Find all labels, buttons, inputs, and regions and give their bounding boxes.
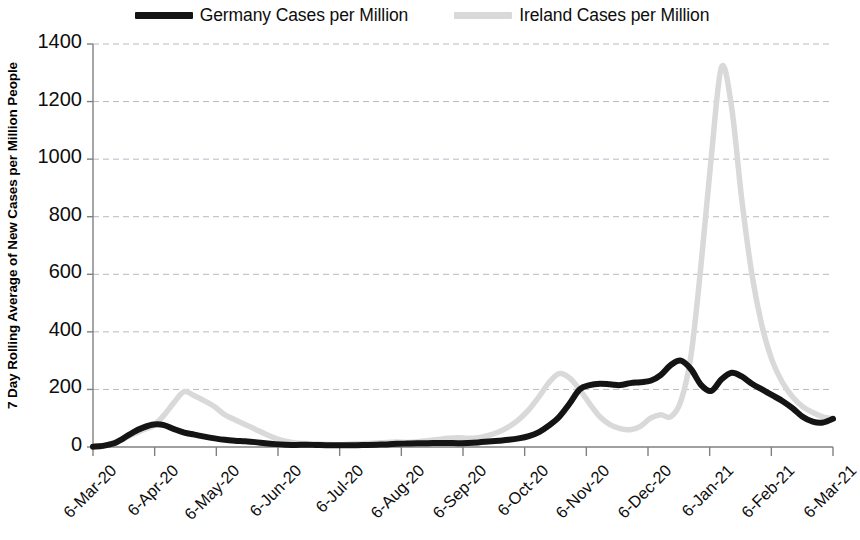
y-tick-label: 1400 — [12, 30, 82, 53]
tick-marks-group — [87, 44, 833, 456]
y-tick-label: 1200 — [12, 88, 82, 111]
gridlines-group — [93, 44, 833, 389]
y-tick-label: 600 — [12, 260, 82, 283]
axis-lines-group — [93, 44, 833, 447]
y-tick-label: 200 — [12, 375, 82, 398]
y-tick-label: 0 — [12, 433, 82, 456]
y-tick-label: 800 — [12, 203, 82, 226]
y-tick-label: 400 — [12, 318, 82, 341]
y-tick-label: 1000 — [12, 145, 82, 168]
